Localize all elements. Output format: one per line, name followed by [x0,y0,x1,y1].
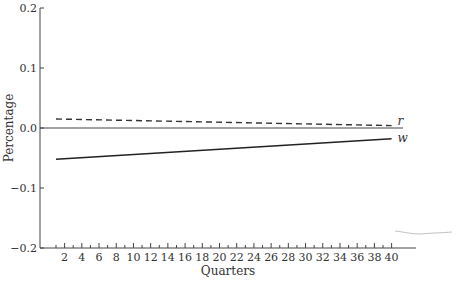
x-tick-label: 34 [333,251,347,264]
x-tick-label: 28 [281,251,295,264]
line-chart: −0.2−0.10.00.10.224681012141618202224262… [0,0,456,283]
series-label-w: w [398,131,409,145]
x-tick-label: 14 [161,251,175,264]
x-tick-label: 8 [113,251,120,264]
x-axis-title: Quarters [201,264,255,278]
x-tick-label: 10 [126,251,140,264]
x-tick-label: 24 [247,251,261,264]
series-line-w [56,139,392,159]
series-group: rw [56,114,409,160]
series-label-r: r [398,114,405,128]
x-tick-label: 20 [213,251,227,264]
y-tick-label: 0.0 [20,122,38,135]
axes [40,8,416,248]
x-tick-label: 32 [316,251,330,264]
y-tick-label: 0.2 [20,2,38,15]
scan-artifact [395,231,452,234]
x-tick-label: 30 [299,251,313,264]
x-tick-label: 36 [350,251,364,264]
series-line-r [56,119,392,126]
x-tick-label: 6 [96,251,103,264]
x-tick-label: 18 [195,251,209,264]
x-tick-label: 22 [230,251,244,264]
y-tick-label: 0.1 [20,62,38,75]
y-tick-label: −0.2 [10,242,37,255]
x-tick-label: 4 [78,251,85,264]
x-tick-label: 2 [61,251,68,264]
x-tick-label: 16 [178,251,192,264]
y-axis-title: Percentage [2,94,16,163]
x-tick-label: 38 [367,251,381,264]
y-tick-label: −0.1 [10,182,37,195]
x-tick-label: 26 [264,251,278,264]
ticks: −0.2−0.10.00.10.224681012141618202224262… [10,2,398,264]
x-tick-label: 40 [385,251,399,264]
x-tick-label: 12 [144,251,158,264]
